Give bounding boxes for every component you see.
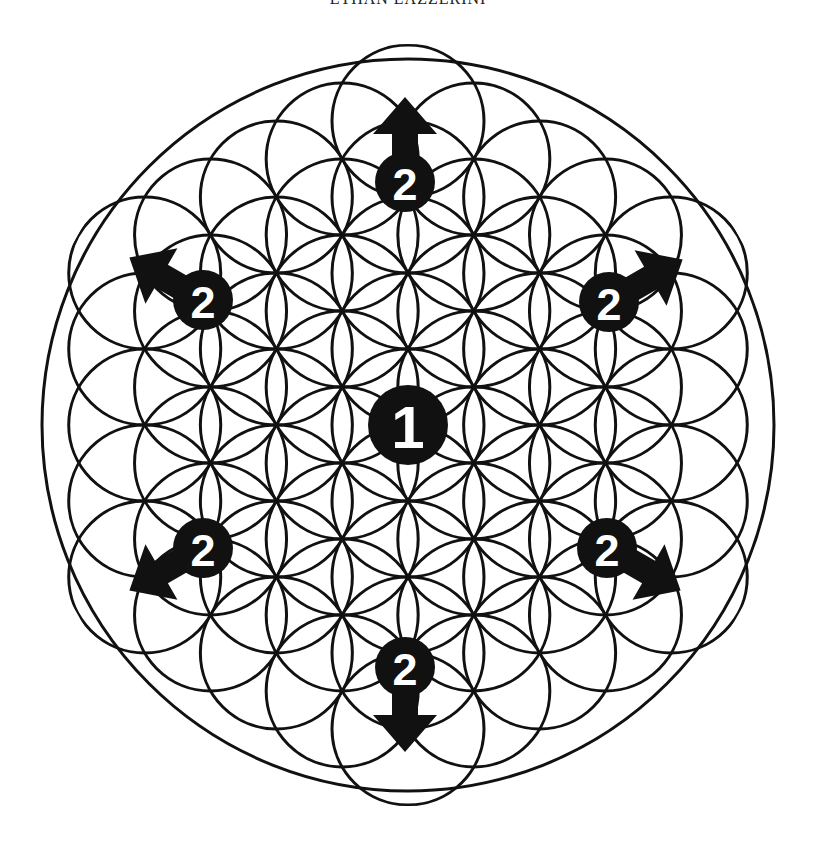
flower-of-life-diagram: 1222222 — [0, 0, 816, 848]
outward-badge: 2 — [373, 637, 437, 752]
badge-label: 2 — [392, 644, 417, 695]
badge-label: 2 — [190, 525, 215, 576]
badge-label: 2 — [596, 279, 621, 330]
badge-label: 1 — [391, 394, 424, 461]
outward-badge: 2 — [373, 97, 437, 212]
center-badge: 1 — [368, 385, 448, 465]
badge-label: 2 — [594, 525, 619, 576]
badge-label: 2 — [392, 159, 417, 210]
badge-label: 2 — [190, 277, 215, 328]
